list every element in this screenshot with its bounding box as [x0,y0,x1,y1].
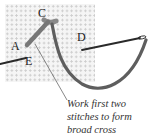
leader-line [35,44,67,100]
needle-left [0,58,26,64]
label-e: E [25,55,32,67]
stitch-a-c [27,22,48,45]
thread [52,24,146,88]
needle-right [82,38,140,50]
caption: Work first two stitches to form broad cr… [67,97,147,136]
label-c: C [38,7,46,19]
caption-line-3: broad cross [67,123,147,136]
label-d: D [77,31,86,43]
caption-line-2: stitches to form [67,110,147,123]
caption-line-1: Work first two [67,97,147,110]
stitch-top-knot [44,20,56,22]
label-a: A [11,40,20,52]
